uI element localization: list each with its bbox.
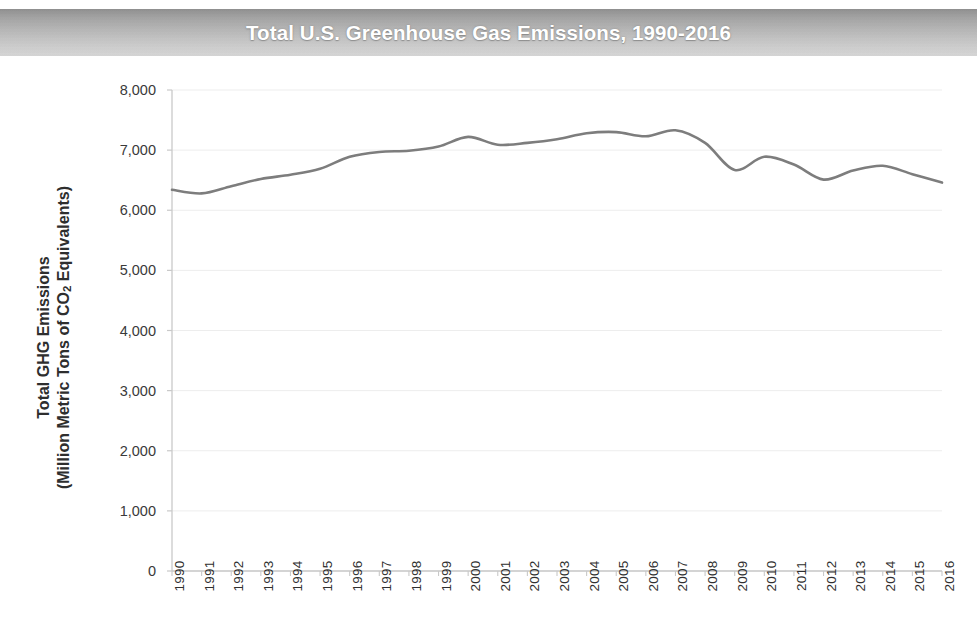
y-axis-tick-label: 2,000: [120, 443, 156, 459]
y-axis-tick-label: 1,000: [120, 503, 156, 519]
x-axis-tick-label: 1998: [409, 561, 424, 592]
x-axis-tick-label: 2004: [587, 561, 602, 592]
x-axis-tick-label: 1997: [379, 561, 394, 592]
x-axis-tick-label: 2015: [912, 561, 927, 592]
x-axis-tick-label: 2010: [764, 561, 779, 592]
chart-title-band: Total U.S. Greenhouse Gas Emissions, 199…: [0, 9, 977, 56]
x-axis-tick-label: 2006: [646, 561, 661, 592]
x-axis-tick-label: 2011: [794, 561, 809, 591]
y-axis-title-line-1: Total GHG Emissions: [34, 256, 54, 418]
plot-area: [172, 90, 942, 571]
x-axis-tick-label: 2012: [824, 561, 839, 592]
y-axis-tick-label: 6,000: [120, 202, 156, 218]
chart-title: Total U.S. Greenhouse Gas Emissions, 199…: [246, 21, 731, 45]
x-axis-tick-label: 1993: [261, 561, 276, 592]
x-axis-tick-labels: 1990199119921993199419951996199719981999…: [172, 576, 942, 636]
y-axis-title-line-2-pre: (Million Metric Tons of CO: [55, 292, 72, 489]
x-axis-tick-label: 2002: [527, 561, 542, 592]
emissions-line-series: [172, 130, 942, 193]
x-axis-tick-label: 2009: [735, 561, 750, 592]
chart-figure: Total U.S. Greenhouse Gas Emissions, 199…: [0, 0, 977, 636]
x-axis-tick-label: 2001: [498, 561, 513, 592]
x-axis-tick-label: 2016: [942, 561, 957, 592]
plot-svg: [172, 90, 942, 571]
x-axis-tick-label: 1992: [231, 561, 246, 592]
y-axis-title: Total GHG Emissions (Million Metric Tons…: [34, 88, 73, 588]
y-axis-tick-label: 8,000: [120, 82, 156, 98]
x-axis-tick-label: 2008: [705, 561, 720, 592]
y-axis-tick-label: 0: [148, 563, 156, 579]
x-axis-tick-label: 2014: [883, 561, 898, 592]
x-axis-tick-label: 1994: [290, 561, 305, 592]
x-axis-tick-label: 1990: [172, 561, 187, 592]
y-axis-tick-label: 7,000: [120, 142, 156, 158]
x-axis-tick-label: 1996: [350, 561, 365, 592]
x-axis-tick-label: 1999: [439, 561, 454, 592]
y-axis-title-line-2: (Million Metric Tons of CO2 Equivalents): [54, 186, 74, 489]
x-axis-tick-label: 2013: [853, 561, 868, 592]
gridlines: [172, 90, 942, 571]
y-axis-tick-label: 3,000: [120, 383, 156, 399]
x-axis-tick-label: 2005: [616, 561, 631, 592]
y-axis-title-subscript: 2: [62, 286, 74, 292]
x-axis-tick-label: 1991: [202, 561, 217, 592]
y-axis-title-line-2-post: Equivalents): [55, 186, 72, 286]
x-axis-tick-label: 2000: [468, 561, 483, 592]
y-axis-tick-labels: 8,0007,0006,0005,0004,0003,0002,0001,000…: [96, 90, 164, 571]
y-axis-tick-label: 5,000: [120, 262, 156, 278]
x-axis-tick-label: 2007: [675, 561, 690, 592]
y-axis-tick-label: 4,000: [120, 323, 156, 339]
x-axis-tick-label: 2003: [557, 561, 572, 592]
x-axis-tick-label: 1995: [320, 561, 335, 592]
